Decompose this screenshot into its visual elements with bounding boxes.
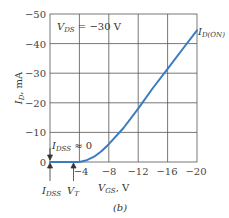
idss-up-arrow bbox=[48, 163, 53, 181]
idss-approx-label: IDSS ≈ 0 bbox=[51, 140, 92, 153]
x-tick-labels: −4 −8 −12 −16 −20 bbox=[74, 166, 207, 177]
panel-label: (b) bbox=[113, 202, 127, 213]
id-on-label: ID(ON) bbox=[197, 26, 225, 39]
x-tick: −20 bbox=[185, 166, 206, 177]
x-tick: −8 bbox=[102, 166, 117, 177]
chart: −50 −40 −30 −20 −10 0 −4 −8 −12 −16 −20 … bbox=[0, 0, 229, 218]
y-tick-labels: −50 −40 −30 −20 −10 0 bbox=[25, 9, 46, 168]
y-tick: −50 bbox=[25, 9, 46, 20]
y-tick: −20 bbox=[25, 98, 46, 109]
vt-label: VT bbox=[67, 185, 80, 198]
idss-label: IDSS bbox=[41, 185, 61, 198]
x-axis-label: VGS, V bbox=[98, 182, 130, 195]
condition-label: VDS = −30 V bbox=[57, 21, 122, 34]
y-tick: −30 bbox=[25, 68, 46, 79]
x-tick: −12 bbox=[127, 166, 148, 177]
y-tick: −40 bbox=[25, 39, 46, 50]
x-tick: −16 bbox=[156, 166, 177, 177]
y-tick: −10 bbox=[25, 127, 46, 138]
y-tick: 0 bbox=[40, 157, 46, 168]
